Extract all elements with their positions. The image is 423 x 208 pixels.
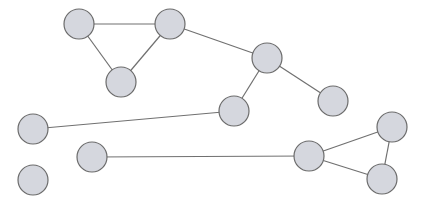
node-6 — [219, 96, 249, 126]
node-1 — [64, 9, 94, 39]
node-5 — [318, 86, 348, 116]
edge-6-7 — [33, 111, 234, 129]
node-10 — [294, 141, 324, 171]
nodes-layer — [18, 9, 407, 195]
node-8 — [77, 142, 107, 172]
edge-8-10 — [92, 156, 309, 157]
node-3 — [106, 67, 136, 97]
node-11 — [377, 112, 407, 142]
node-2 — [155, 9, 185, 39]
network-graph — [0, 0, 423, 208]
node-4 — [252, 43, 282, 73]
node-9 — [18, 165, 48, 195]
node-7 — [18, 114, 48, 144]
node-12 — [367, 164, 397, 194]
